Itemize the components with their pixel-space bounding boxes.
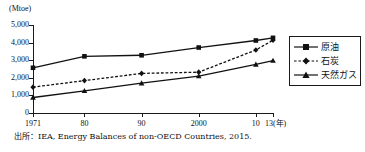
data-point-marker xyxy=(253,47,258,53)
x-axis-tick-label: 10 xyxy=(252,119,260,128)
plot-area: 01,0002,0003,0004,0005,000 1971809020001… xyxy=(33,25,273,114)
series-3 xyxy=(30,58,276,100)
legend-item-crude-oil: 原油 xyxy=(293,40,356,54)
y-axis-tick-label: 5,000 xyxy=(0,21,29,29)
legend-item-natural-gas: 天然ガス xyxy=(293,68,356,82)
y-axis-unit-label: (Mtoe) xyxy=(9,4,31,14)
legend-key-coal-icon xyxy=(293,55,319,67)
y-axis-tick-label: 0 xyxy=(0,109,29,117)
y-axis-tick-label: 2,000 xyxy=(0,74,29,82)
y-axis-tick-label: 4,000 xyxy=(0,39,29,47)
legend-key-crude-oil-icon xyxy=(293,41,319,53)
data-point-marker xyxy=(82,54,87,59)
legend-key-natural-gas-icon xyxy=(293,69,319,81)
x-axis-tick-label: 80 xyxy=(80,119,88,128)
chart-figure: (Mtoe) 01,0002,0003,0004,0005,000 197180… xyxy=(0,0,365,152)
series-layer xyxy=(33,25,273,114)
data-point-marker xyxy=(31,65,36,70)
legend-label-crude-oil: 原油 xyxy=(319,42,339,53)
data-point-marker xyxy=(196,45,201,50)
x-axis-tick xyxy=(273,113,274,117)
chart-legend: 原油 石炭 天然ガス xyxy=(289,36,361,86)
data-point-marker xyxy=(139,71,144,77)
source-note: 出所：IEA, Energy Balances of non-OECD Coun… xyxy=(14,132,252,142)
x-axis-tick-label: 90 xyxy=(138,119,146,128)
legend-label-natural-gas: 天然ガス xyxy=(319,70,357,81)
x-axis-tick-label: 1971 xyxy=(25,119,41,128)
data-point-marker xyxy=(270,58,276,63)
x-axis-tick-label: 13(年) xyxy=(265,119,286,128)
x-axis-tick-label: 2000 xyxy=(191,119,207,128)
series-line xyxy=(33,40,273,87)
data-point-marker xyxy=(30,84,35,90)
series-line xyxy=(33,38,273,68)
legend-item-coal: 石炭 xyxy=(293,54,356,68)
series-line xyxy=(33,61,273,98)
y-axis-tick-label: 3,000 xyxy=(0,56,29,64)
legend-label-coal: 石炭 xyxy=(319,56,339,67)
data-point-marker xyxy=(139,53,144,58)
y-axis-tick-label: 1,000 xyxy=(0,91,29,99)
series-1 xyxy=(31,36,276,71)
data-point-marker xyxy=(254,38,259,43)
y-axis-tick-labels: 01,0002,0003,0004,0005,000 xyxy=(0,25,29,114)
data-point-marker xyxy=(82,78,87,84)
